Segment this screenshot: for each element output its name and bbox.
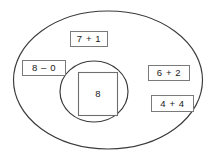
fact-box-left[interactable]: 8 – 0 [22,60,66,76]
fact-box-top-center[interactable]: 7 + 1 [70,31,108,47]
fact-box-right-lower[interactable]: 4 + 4 [151,95,194,112]
center-value-label: 8 [78,72,118,116]
fact-box-right-upper[interactable]: 6 + 2 [148,65,190,81]
diagram-canvas: 8 7 + 1 8 – 0 6 + 2 4 + 4 [0,0,216,159]
